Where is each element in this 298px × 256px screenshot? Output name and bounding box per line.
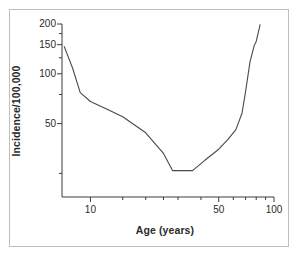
figure-container: Incidence/100,000 Age (years) 5010015020… [0, 0, 298, 256]
y-tick-label: 100 [10, 68, 56, 79]
x-tick-label: 50 [199, 204, 239, 215]
y-axis-ticks [57, 24, 62, 173]
x-tick-label: 100 [254, 204, 294, 215]
plot-area: Incidence/100,000 Age (years) 5010015020… [0, 0, 298, 256]
x-axis-ticks [90, 197, 274, 202]
y-tick-label: 50 [10, 118, 56, 129]
y-tick-label: 200 [10, 18, 56, 29]
incidence-data-line [64, 25, 260, 171]
x-tick-label: 10 [70, 204, 110, 215]
y-tick-label: 150 [10, 39, 56, 50]
x-axis-label: Age (years) [60, 224, 270, 236]
